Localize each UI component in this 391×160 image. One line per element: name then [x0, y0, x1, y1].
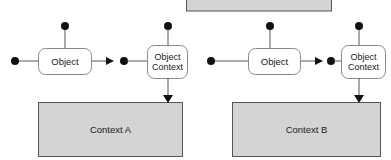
arrowhead-b-into-context: [354, 95, 364, 103]
object-context-a-node: [148, 46, 188, 79]
connector-dot-a-input: [11, 57, 19, 65]
connector-dot-b-mid: [327, 57, 335, 65]
object-b-node: [249, 49, 301, 75]
connector-dot-b-objectcontext-top: [355, 22, 363, 30]
arrowhead-b-midline: [315, 57, 323, 65]
connector-dot-a-mid: [120, 57, 128, 65]
object-context-diagram: Object Object Context Context A Object O…: [0, 0, 391, 160]
arrowhead-a-into-context: [163, 95, 173, 103]
connector-dot-a-object-top: [61, 22, 69, 30]
partial-context-box: [187, 0, 332, 11]
diagram-graphics: [0, 0, 391, 160]
connector-dot-a-objectcontext-top: [164, 22, 172, 30]
connector-dot-b-object-top: [266, 22, 274, 30]
context-a-box: [39, 103, 183, 157]
arrowhead-a-midline: [106, 57, 114, 65]
object-a-node: [39, 49, 92, 75]
object-context-b-node: [342, 46, 386, 79]
connector-dot-b-input: [207, 57, 215, 65]
context-b-box: [233, 103, 381, 157]
